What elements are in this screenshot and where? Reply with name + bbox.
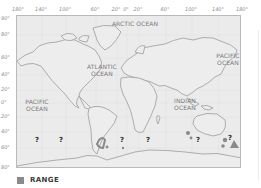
longitude-label: 20° bbox=[134, 6, 143, 12]
latitude-label: 0° bbox=[1, 99, 7, 105]
latitude-label: 20° bbox=[1, 86, 10, 92]
ocean-label-line: PACIFIC bbox=[216, 52, 239, 59]
ocean-label-line: OCEAN bbox=[174, 104, 196, 111]
longitude-label: 100° bbox=[185, 6, 197, 12]
longitude-label: 180° bbox=[12, 6, 24, 12]
ocean-label-atlantic: ATLANTIC OCEAN bbox=[87, 63, 117, 77]
uncertain-range-marker: ? bbox=[146, 136, 150, 144]
ocean-label-line: OCEAN bbox=[216, 59, 239, 66]
map-legend: RANGE bbox=[17, 176, 59, 184]
ocean-label-line: PACIFIC bbox=[25, 98, 48, 105]
uncertain-range-marker: ? bbox=[196, 136, 200, 144]
longitude-label: 180° bbox=[236, 6, 248, 12]
ocean-label-line: OCEAN bbox=[25, 105, 48, 112]
ocean-label-pacific-east: PACIFIC OCEAN bbox=[216, 52, 239, 66]
uncertain-range-marker: ? bbox=[59, 136, 63, 144]
uncertain-range-marker: ? bbox=[120, 136, 124, 144]
world-map: ARCTIC OCEAN ATLANTIC OCEAN PACIFIC OCEA… bbox=[16, 15, 241, 168]
ocean-label-indian: INDIAN OCEAN bbox=[174, 97, 196, 111]
latitude-label: 60° bbox=[1, 144, 10, 150]
coastlines bbox=[17, 25, 241, 168]
divider bbox=[258, 30, 259, 180]
latitude-label: 40° bbox=[1, 128, 10, 134]
ocean-label-line: OCEAN bbox=[87, 70, 117, 77]
latitude-label: 40° bbox=[1, 71, 10, 77]
longitude-label: 60° bbox=[161, 6, 170, 12]
map-graphic bbox=[17, 16, 241, 168]
longitude-label: 100° bbox=[59, 6, 71, 12]
latitude-label: 60° bbox=[1, 54, 10, 60]
longitude-label: 140° bbox=[35, 6, 47, 12]
ocean-label-pacific-west: PACIFIC OCEAN bbox=[25, 98, 48, 112]
longitude-label: 0° bbox=[123, 6, 129, 12]
latitude-label: 20° bbox=[1, 113, 10, 119]
uncertain-range-marker: ? bbox=[35, 136, 39, 144]
latitude-label: 80° bbox=[1, 164, 10, 170]
longitude-label: 140° bbox=[212, 6, 224, 12]
ocean-label-line: ATLANTIC bbox=[87, 63, 117, 70]
latitude-label: 80° bbox=[1, 31, 10, 37]
uncertain-range-marker: ? bbox=[228, 134, 232, 142]
range-swatch bbox=[17, 177, 24, 184]
ocean-label-arctic: ARCTIC OCEAN bbox=[112, 20, 158, 27]
legend-label: RANGE bbox=[30, 176, 59, 184]
longitude-label: 20° bbox=[112, 6, 121, 12]
latitude-label: 90° bbox=[1, 15, 10, 21]
ocean-label-line: INDIAN bbox=[174, 97, 196, 104]
longitude-label: 60° bbox=[91, 6, 100, 12]
